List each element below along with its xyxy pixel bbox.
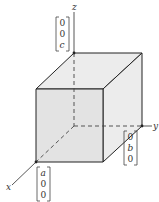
svg-text:0: 0: [41, 190, 47, 200]
x-axis: [12, 162, 36, 185]
svg-text:0: 0: [60, 18, 66, 28]
svg-text:c: c: [60, 40, 65, 50]
box-diagram: z y x 0 0 c 0 b 0 a 0 0: [0, 0, 159, 202]
z-axis-label: z: [71, 2, 77, 12]
svg-text:0: 0: [128, 154, 134, 164]
svg-text:0: 0: [60, 29, 66, 39]
svg-text:a: a: [41, 168, 46, 178]
svg-text:b: b: [128, 143, 134, 153]
svg-text:0: 0: [128, 132, 134, 142]
corner-point-c: [73, 52, 76, 55]
vector-0-0-c: 0 0 c: [56, 17, 69, 51]
box-front-face: [36, 89, 103, 162]
corner-point-b: [141, 125, 144, 128]
svg-text:0: 0: [41, 179, 47, 189]
y-axis-label: y: [152, 121, 159, 131]
x-axis-label: x: [6, 182, 11, 192]
vector-a-0-0: a 0 0: [37, 167, 50, 201]
corner-point-a: [35, 161, 38, 164]
